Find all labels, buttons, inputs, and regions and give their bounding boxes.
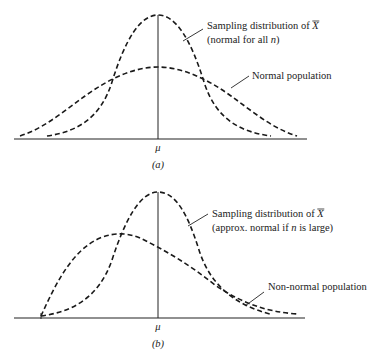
leader-line-sampling-b bbox=[188, 214, 208, 226]
panel-a: Sampling distribution of X (normal for a… bbox=[14, 15, 332, 171]
caption-a: (a) bbox=[152, 159, 165, 171]
mu-label-a: μ bbox=[154, 142, 160, 153]
leader-line-sampling-a bbox=[183, 29, 203, 41]
sampling-label-a-line2: (normal for all n) bbox=[207, 34, 280, 46]
mu-label-b: μ bbox=[154, 321, 160, 332]
sampling-label-b-line2: (approx. normal if n is large) bbox=[212, 222, 334, 234]
xbar-symbol: X bbox=[311, 20, 319, 31]
panel-b: Sampling distribution of X (approx. norm… bbox=[14, 192, 368, 350]
xbar-symbol: X bbox=[316, 208, 324, 219]
population-label-b: Non-normal population bbox=[268, 281, 368, 292]
population-label-a: Normal population bbox=[252, 70, 332, 81]
sampling-distribution-diagram: Sampling distribution of X (normal for a… bbox=[0, 0, 368, 361]
caption-b: (b) bbox=[152, 338, 165, 350]
sampling-label-a-line1: Sampling distribution of X bbox=[207, 20, 319, 31]
sampling-label-b-line1: Sampling distribution of X bbox=[212, 208, 324, 219]
leader-line-population-b bbox=[245, 292, 264, 306]
leader-line-population-a bbox=[231, 76, 249, 88]
